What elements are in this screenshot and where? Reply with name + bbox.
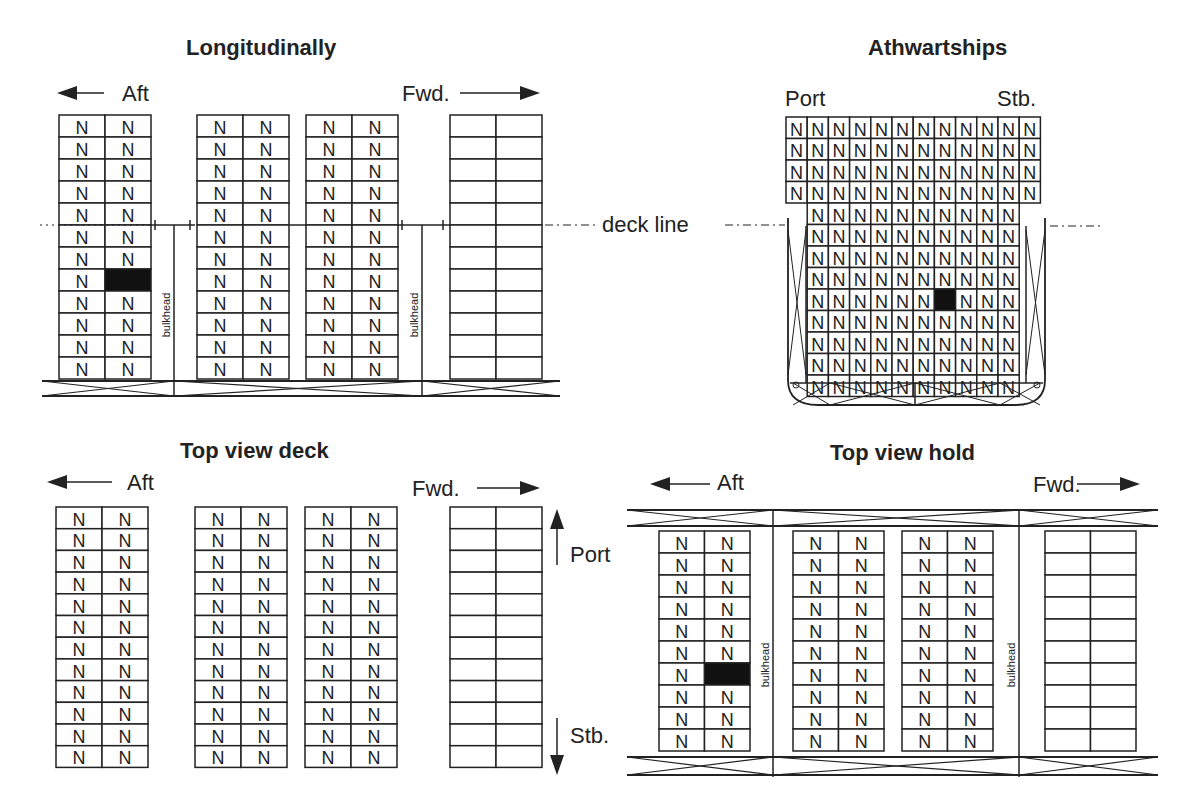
container-mark: N	[809, 622, 822, 642]
container-mark: N	[964, 688, 977, 708]
container-slot	[496, 572, 542, 594]
container-mark: N	[369, 228, 382, 248]
container-mark: N	[833, 270, 846, 290]
container-mark: N	[675, 644, 688, 664]
container-slot	[496, 225, 542, 247]
aft-label: Aft	[127, 470, 154, 495]
container-mark: N	[1002, 249, 1015, 269]
container-mark: N	[981, 163, 994, 183]
container-mark: N	[960, 313, 973, 333]
container-mark: N	[76, 162, 89, 182]
container-mark: N	[258, 683, 271, 703]
container-mark: N	[790, 120, 803, 140]
container-mark: N	[368, 640, 381, 660]
container-mark: N	[811, 292, 824, 312]
container-mark: N	[258, 575, 271, 595]
longitudinal-bay-3: NNNNNNNNNNNNNNNNNNNNNNNN	[306, 115, 398, 380]
container-mark: N	[119, 662, 132, 682]
container-mark: N	[322, 640, 335, 660]
container-mark: N	[368, 705, 381, 725]
container-mark: N	[896, 184, 909, 204]
container-slot	[450, 335, 496, 357]
container-slot	[450, 159, 496, 181]
container-mark: N	[675, 578, 688, 598]
container-mark: N	[809, 666, 822, 686]
container-slot	[1045, 575, 1091, 597]
container-mark: N	[811, 141, 824, 161]
container-slot	[496, 659, 542, 681]
container-mark: N	[917, 335, 930, 355]
container-mark: N	[855, 732, 868, 752]
container-mark: N	[855, 710, 868, 730]
container-mark: N	[369, 162, 382, 182]
container-mark: N	[258, 597, 271, 617]
container-mark: N	[119, 597, 132, 617]
container-mark: N	[896, 335, 909, 355]
top-hold-bay-2: NNNNNNNNNNNNNNNNNNNN	[793, 531, 884, 752]
container-mark: N	[721, 600, 734, 620]
container-mark: N	[809, 556, 822, 576]
container-mark: N	[917, 356, 930, 376]
container-mark: N	[122, 360, 135, 380]
container-slot	[450, 137, 496, 159]
container-mark: N	[833, 163, 846, 183]
container-slot	[1091, 575, 1137, 597]
container-slot	[496, 335, 542, 357]
container-mark: N	[917, 120, 930, 140]
container-mark: N	[212, 662, 225, 682]
container-slot	[496, 637, 542, 659]
container-mark: N	[258, 727, 271, 747]
container-mark: N	[76, 140, 89, 160]
container-slot	[450, 115, 496, 137]
aft-arrow-icon	[57, 86, 104, 100]
container-mark: N	[122, 316, 135, 336]
container-slot	[450, 637, 496, 659]
container-mark: N	[212, 531, 225, 551]
container-slot	[450, 746, 496, 768]
container-mark: N	[833, 206, 846, 226]
title-longitudinal: Longitudinally	[186, 35, 337, 60]
container-mark: N	[833, 249, 846, 269]
container-mark: N	[73, 597, 86, 617]
container-mark: N	[918, 732, 931, 752]
container-mark: N	[369, 272, 382, 292]
container-mark: N	[369, 294, 382, 314]
container-mark: N	[854, 249, 867, 269]
container-mark: N	[73, 727, 86, 747]
container-mark: N	[323, 184, 336, 204]
container-mark: N	[811, 120, 824, 140]
container-mark: N	[917, 313, 930, 333]
container-mark: N	[833, 227, 846, 247]
container-mark: N	[368, 748, 381, 768]
container-slot	[1045, 619, 1091, 641]
container-mark: N	[73, 683, 86, 703]
container-mark: N	[855, 666, 868, 686]
container-mark: N	[214, 162, 227, 182]
container-mark: N	[896, 292, 909, 312]
container-mark: N	[939, 141, 952, 161]
container-mark: N	[721, 710, 734, 730]
container-mark: N	[960, 227, 973, 247]
container-mark: N	[214, 272, 227, 292]
container-mark: N	[964, 600, 977, 620]
container-mark: N	[964, 732, 977, 752]
container-mark: N	[122, 140, 135, 160]
container-slot	[450, 616, 496, 638]
container-slot	[1091, 531, 1137, 553]
container-slot	[450, 724, 496, 746]
container-mark: N	[855, 644, 868, 664]
container-mark: N	[212, 748, 225, 768]
stb-label: Stb.	[570, 723, 609, 748]
container-mark: N	[212, 705, 225, 725]
container-mark: N	[214, 184, 227, 204]
container-mark: N	[811, 313, 824, 333]
container-slot	[496, 137, 542, 159]
container-mark: N	[368, 683, 381, 703]
container-mark: N	[811, 335, 824, 355]
athwartships-hold-stack: NNNNNNNNNNNNNNNNNNNNNNNNNNNNNNNNNNNNNNNN…	[807, 203, 1019, 398]
container-mark: N	[1023, 141, 1036, 161]
container-mark: N	[76, 228, 89, 248]
container-mark: N	[964, 644, 977, 664]
container-mark: N	[854, 378, 867, 398]
container-mark: N	[73, 553, 86, 573]
